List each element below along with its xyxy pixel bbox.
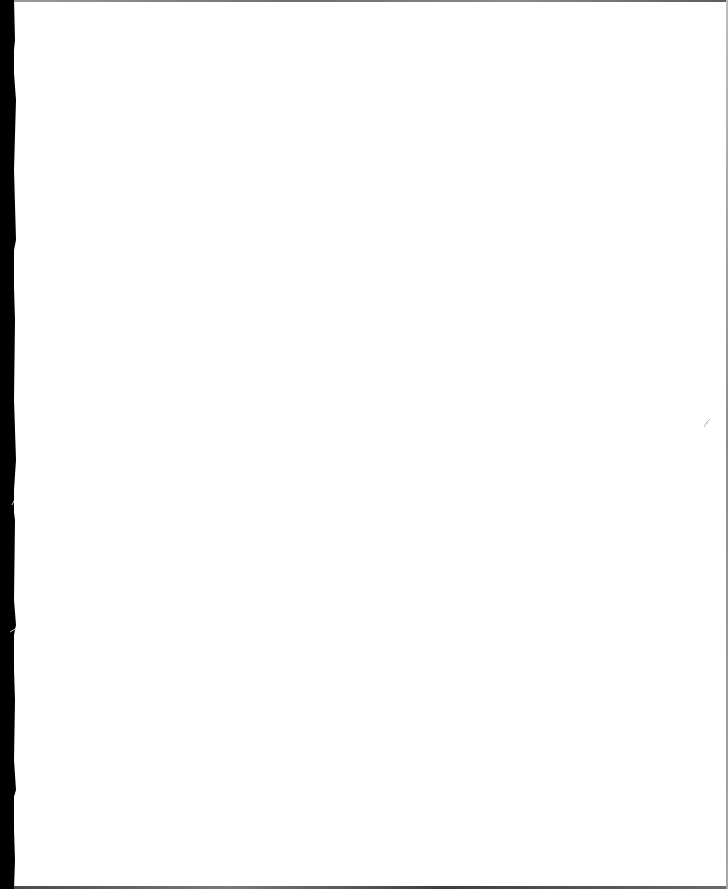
dust-speck [703, 418, 711, 428]
blank-page [0, 0, 728, 889]
top-scan-border [14, 0, 728, 2]
ragged-paper-edge [10, 0, 18, 889]
